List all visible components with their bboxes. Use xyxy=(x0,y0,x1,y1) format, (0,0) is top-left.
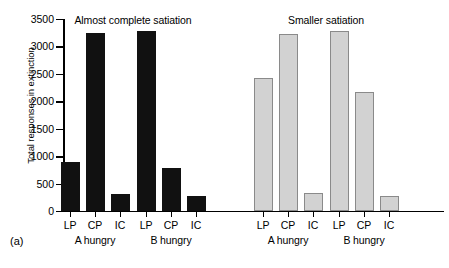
bar xyxy=(380,196,399,211)
x-tick-mark xyxy=(120,212,121,217)
x-category-label: IC xyxy=(183,219,209,231)
x-category-label: LP xyxy=(250,219,276,231)
x-tick-mark xyxy=(364,212,365,217)
y-tick-mark xyxy=(56,46,63,47)
x-category-label: LP xyxy=(326,219,352,231)
x-category-label: IC xyxy=(300,219,326,231)
x-tick-mark xyxy=(171,212,172,217)
figure-caption: (a) xyxy=(10,235,23,247)
y-tick-mark xyxy=(56,74,63,75)
panel-header: Smaller satiation xyxy=(288,14,364,26)
bar xyxy=(254,78,273,211)
bar xyxy=(304,193,323,211)
bar xyxy=(162,168,181,211)
x-tick-mark xyxy=(288,212,289,217)
bar xyxy=(137,31,156,211)
y-tick-label: 1500 xyxy=(0,124,54,135)
y-tick-label: 500 xyxy=(0,179,54,190)
x-tick-mark xyxy=(313,212,314,217)
x-group-label: B hungry xyxy=(126,234,216,246)
x-category-label: CP xyxy=(275,219,301,231)
x-tick-mark xyxy=(70,212,71,217)
x-category-label: IC xyxy=(376,219,402,231)
x-category-label: CP xyxy=(351,219,377,231)
bar xyxy=(355,92,374,211)
bar xyxy=(279,34,298,211)
y-tick-label: 2000 xyxy=(0,96,54,107)
y-tick-label: 0 xyxy=(0,206,54,217)
bar xyxy=(111,194,130,211)
y-tick-mark xyxy=(56,211,63,212)
y-tick-mark xyxy=(56,156,63,157)
x-category-label: IC xyxy=(107,219,133,231)
y-tick-label: 3000 xyxy=(0,41,54,52)
x-tick-mark xyxy=(263,212,264,217)
x-tick-mark xyxy=(95,212,96,217)
y-tick-mark xyxy=(56,101,63,102)
panel-header: Almost complete satiation xyxy=(74,14,191,26)
y-tick-mark xyxy=(56,19,63,20)
plot-area xyxy=(63,19,444,211)
x-category-label: LP xyxy=(57,219,83,231)
bar xyxy=(330,31,349,211)
x-category-label: CP xyxy=(158,219,184,231)
x-category-label: LP xyxy=(133,219,159,231)
x-group-label: B hungry xyxy=(319,234,409,246)
x-tick-mark xyxy=(389,212,390,217)
x-tick-mark xyxy=(196,212,197,217)
y-tick-label: 1000 xyxy=(0,151,54,162)
bar-chart-figure: Total responses in extinction 0500100015… xyxy=(0,0,449,268)
x-tick-mark xyxy=(339,212,340,217)
y-tick-mark xyxy=(56,129,63,130)
y-tick-label: 3500 xyxy=(0,14,54,25)
x-category-label: CP xyxy=(82,219,108,231)
bar xyxy=(86,33,105,211)
bar xyxy=(187,196,206,211)
bar xyxy=(61,162,80,211)
x-tick-mark xyxy=(146,212,147,217)
y-tick-label: 2500 xyxy=(0,69,54,80)
